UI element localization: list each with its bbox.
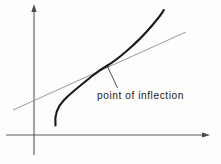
x-axis-arrow-icon bbox=[202, 132, 210, 137]
inflection-diagram-svg: point of inflection bbox=[0, 0, 221, 164]
annotation-leader-line bbox=[108, 67, 118, 89]
point-of-inflection-label: point of inflection bbox=[97, 90, 184, 101]
y-axis-arrow-icon bbox=[31, 4, 36, 12]
cubic-curve bbox=[55, 10, 164, 126]
figure-container: point of inflection bbox=[0, 0, 221, 164]
